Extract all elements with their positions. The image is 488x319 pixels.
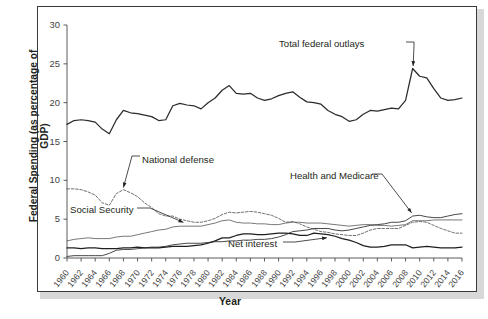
chart-figure: Federal Spending (as percentage of GDP) … xyxy=(0,0,488,319)
axis-lines xyxy=(64,25,463,262)
annotation-leaders xyxy=(123,42,415,242)
x-axis-title: Year xyxy=(170,296,290,307)
leader-line-national-defense xyxy=(123,156,140,187)
annotation-health-and-medicare: Health and Medicare xyxy=(290,170,379,181)
y-tick-label: 20 xyxy=(38,97,60,108)
series-line-total-federal-outlays xyxy=(67,68,462,133)
annotation-net-interest: Net interest xyxy=(228,238,277,249)
annotation-total-federal-outlays: Total federal outlays xyxy=(279,38,364,49)
y-tick-label: 10 xyxy=(38,174,60,185)
annotation-national-defense: National defense xyxy=(142,154,214,165)
series-lines xyxy=(67,68,462,256)
y-tick-label: 30 xyxy=(38,19,60,30)
leader-arrowhead-total-federal-outlays xyxy=(412,61,416,66)
y-tick-label: 25 xyxy=(38,58,60,69)
y-tick-label: 15 xyxy=(38,136,60,147)
leader-arrowhead-net-interest xyxy=(322,237,327,241)
leader-line-social-security xyxy=(137,208,183,222)
leader-line-net-interest xyxy=(283,238,327,242)
leader-arrowhead-national-defense xyxy=(123,182,127,187)
annotation-social-security: Social Security xyxy=(70,204,133,215)
y-tick-label: 5 xyxy=(38,213,60,224)
y-tick-label: 0 xyxy=(38,252,60,263)
leader-arrowhead-health-and-medicare xyxy=(407,208,411,213)
